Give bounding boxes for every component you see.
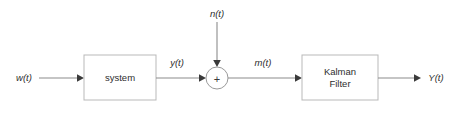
- signal-label-Y: Y(t): [428, 72, 443, 83]
- block-kalman-filter[interactable]: Kalman Filter: [302, 55, 378, 100]
- block-diagram-svg: system + Kalman Filter: [0, 0, 462, 113]
- signal-label-n: n(t): [210, 8, 224, 19]
- block-kalman-filter-label-line2: Filter: [329, 78, 350, 89]
- arrowhead-into-sum-left: [199, 74, 206, 82]
- arrowhead-into-kalman: [295, 74, 302, 82]
- block-system-label: system: [105, 72, 135, 83]
- signal-label-m: m(t): [255, 57, 272, 68]
- signal-label-w: w(t): [16, 72, 32, 83]
- summing-junction[interactable]: +: [206, 67, 228, 89]
- connection-w-to-system: [39, 74, 84, 82]
- signal-label-y: y(t): [169, 57, 184, 68]
- arrowhead-into-output: [414, 74, 421, 82]
- connection-sum-to-kalman: [228, 74, 302, 82]
- block-diagram-canvas: system + Kalman Filter: [0, 0, 462, 113]
- arrowhead-into-sum-top: [213, 60, 221, 67]
- connection-n-to-sum: [213, 22, 221, 67]
- block-system[interactable]: system: [84, 55, 156, 100]
- block-kalman-filter-label-line1: Kalman: [324, 66, 356, 77]
- summing-junction-plus-symbol: +: [214, 73, 220, 85]
- connection-kalman-to-output: [378, 74, 421, 82]
- connection-system-to-sum: [156, 74, 206, 82]
- arrowhead-into-system: [77, 74, 84, 82]
